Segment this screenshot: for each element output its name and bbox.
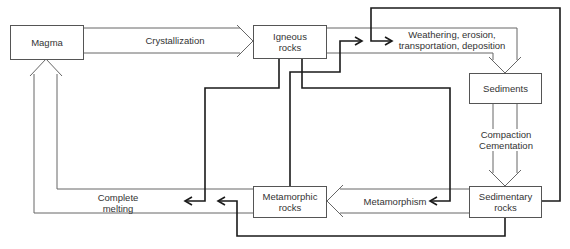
node-metamorphic-rocks: Metamorphic rocks [253, 186, 327, 218]
node-igneous-label: Igneous rocks [273, 31, 307, 53]
node-magma-label: Magma [31, 37, 63, 48]
metamorphic-to-weathering-shortcut [290, 37, 362, 186]
node-sediments-label: Sediments [483, 83, 528, 94]
node-sedimentary-rocks: Sedimentary rocks [469, 186, 542, 218]
rock-cycle-diagram: Magma Igneous rocks Sediments Sedimentar… [0, 0, 570, 249]
node-magma: Magma [10, 25, 84, 60]
process-metamorphism: Metamorphism [355, 196, 435, 207]
node-sedimentary-label: Sedimentary rocks [479, 191, 532, 213]
igneous-to-magma-shortcut [185, 58, 279, 205]
process-crystallization: Crystallization [120, 35, 230, 46]
melting-arrow [30, 59, 253, 213]
process-melting: Complete melting [88, 192, 148, 214]
node-metamorphic-label: Metamorphic rocks [263, 191, 318, 213]
node-igneous-rocks: Igneous rocks [253, 25, 327, 59]
process-weathering: Weathering, erosion, transportation, dep… [392, 29, 512, 51]
node-sediments: Sediments [469, 73, 542, 104]
process-compaction: Compaction Cementation [474, 129, 538, 151]
igneous-to-metamorphism-shortcut [302, 58, 450, 205]
